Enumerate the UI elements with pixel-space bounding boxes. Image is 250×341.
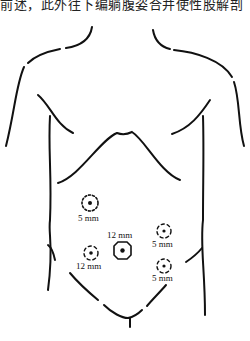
costal-arch-line [58, 132, 180, 183]
left-neck-line [66, 27, 92, 48]
port-label-right-lower: 5 mm [152, 273, 173, 283]
left-inguinal-line-upper [70, 273, 98, 300]
right-inguinal-line-upper [147, 285, 166, 306]
port-label-left-upper: 5 mm [78, 213, 99, 223]
right-arm-line [234, 82, 244, 146]
right-shoulder-line [174, 50, 232, 77]
port-umbilical [114, 242, 131, 259]
right-torso-line [202, 116, 205, 315]
left-torso-line [48, 116, 51, 290]
port-label-left-lower: 12 mm [76, 261, 101, 271]
port-label-right-upper: 5 mm [152, 239, 173, 249]
port-label-umbilical: 12 mm [107, 230, 132, 240]
right-pectoral-line [172, 100, 210, 134]
right-inguinal-line-lower [128, 310, 142, 318]
left-inguinal-line-lower [104, 305, 128, 318]
port-right-lower [157, 259, 171, 273]
port-right-upper [157, 224, 171, 238]
left-shoulder-line [28, 49, 60, 63]
right-flank-line [186, 248, 202, 262]
right-neck-line [153, 30, 170, 49]
left-arm-line [6, 67, 24, 146]
port-left-upper [82, 195, 98, 211]
port-left-lower [84, 246, 98, 260]
left-pectoral-line [38, 95, 73, 133]
abdomen-outline-figure [0, 0, 250, 341]
